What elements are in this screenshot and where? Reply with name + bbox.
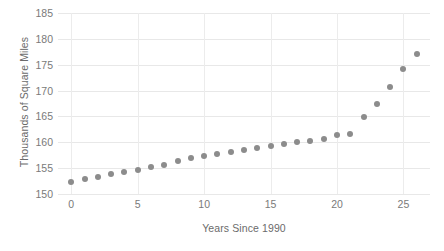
y-axis-tick-label: 175 <box>1 59 53 71</box>
gridline-vertical <box>337 13 338 194</box>
data-point <box>400 66 406 72</box>
data-point <box>135 167 141 173</box>
x-axis-tick-label: 15 <box>265 198 277 210</box>
x-axis-tick-label: 5 <box>135 198 141 210</box>
data-point <box>121 169 127 175</box>
x-axis-tick-label: 20 <box>331 198 343 210</box>
gridline-horizontal <box>58 116 430 117</box>
gridline-vertical <box>204 13 205 194</box>
y-axis-tick-label: 170 <box>1 85 53 97</box>
data-point <box>307 138 313 144</box>
data-point <box>347 131 353 137</box>
y-axis-tick-label: 155 <box>1 162 53 174</box>
y-axis-tick-label: 160 <box>1 136 53 148</box>
data-point <box>374 101 380 107</box>
x-axis-tick-label: 25 <box>398 198 410 210</box>
y-axis-tick-label: 165 <box>1 110 53 122</box>
y-axis-tick-label: 185 <box>1 7 53 19</box>
data-point <box>175 158 181 164</box>
data-point <box>254 145 260 151</box>
data-point <box>414 51 420 57</box>
gridline-horizontal <box>58 91 430 92</box>
gridline-horizontal <box>58 142 430 143</box>
data-point <box>334 132 340 138</box>
gridline-horizontal <box>58 65 430 66</box>
gridline-vertical <box>271 13 272 194</box>
x-axis-tick-label: 0 <box>68 198 74 210</box>
data-point <box>161 162 167 168</box>
y-axis-tick-labels: 150155160165170175180185 <box>0 0 53 251</box>
data-point <box>228 149 234 155</box>
data-point <box>82 176 88 182</box>
data-point <box>268 143 274 149</box>
gridline-horizontal <box>58 194 430 195</box>
data-point <box>201 153 207 159</box>
data-point <box>108 171 114 177</box>
gridline-vertical <box>403 13 404 194</box>
scatter-chart: Thousands of Square Miles 15015516016517… <box>0 0 444 251</box>
data-point <box>68 179 74 185</box>
gridline-horizontal <box>58 39 430 40</box>
data-point <box>281 141 287 147</box>
data-point <box>361 114 367 120</box>
y-axis-tick-label: 150 <box>1 188 53 200</box>
data-point <box>321 136 327 142</box>
data-point <box>387 84 393 90</box>
x-axis-title: Years Since 1990 <box>58 222 430 234</box>
data-point <box>294 139 300 145</box>
data-point <box>214 151 220 157</box>
x-axis-tick-label: 10 <box>198 198 210 210</box>
plot-area <box>58 13 430 194</box>
data-point <box>148 164 154 170</box>
y-axis-tick-label: 180 <box>1 33 53 45</box>
data-point <box>95 174 101 180</box>
gridline-horizontal <box>58 13 430 14</box>
data-point <box>188 155 194 161</box>
data-point <box>241 147 247 153</box>
gridline-horizontal <box>58 168 430 169</box>
gridline-vertical <box>71 13 72 194</box>
